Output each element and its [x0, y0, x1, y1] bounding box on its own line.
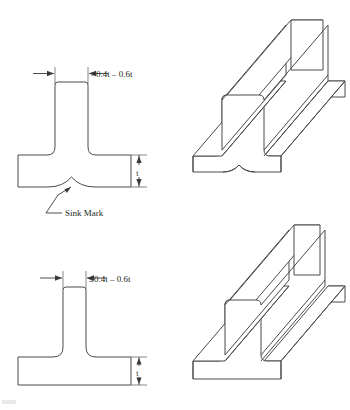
- diagram-sheet: >0.4t – 0.6t t Sink Mark: [0, 0, 350, 410]
- page-edge-artifact: [2, 400, 16, 404]
- lower-profile-outline: [18, 287, 131, 385]
- iso2-rib-back-end-face: [294, 225, 320, 275]
- upper-wall-thickness-dimension: [131, 155, 147, 187]
- upper-isometric-view: [150, 8, 350, 208]
- lower-isometric-view: [150, 218, 350, 403]
- lower-section-view: [0, 265, 160, 395]
- lower-rib-width-dimension: [40, 271, 106, 289]
- upper-profile-outline: [18, 82, 131, 187]
- upper-section-view: [0, 55, 160, 215]
- sink-mark-leader-line: [46, 187, 71, 213]
- lower-wall-thickness-dimension: [131, 357, 147, 385]
- upper-rib-width-dimension: [33, 67, 108, 84]
